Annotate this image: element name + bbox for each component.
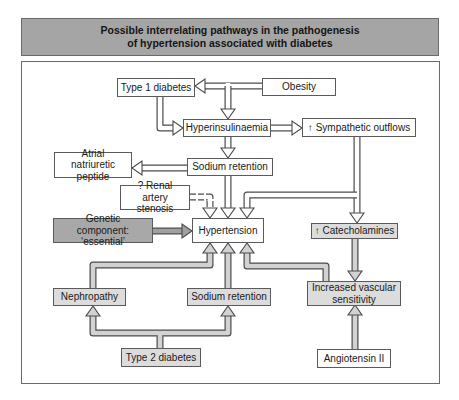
node-sympathetic-outflows: ↑ Sympathetic outflows xyxy=(302,118,416,137)
arrow-hyperinsulinaemia-to-sodium xyxy=(221,136,235,158)
node-type1-diabetes: Type 1 diabetes xyxy=(117,78,195,97)
arrow-sodium-to-hypertension xyxy=(221,174,235,218)
arrow-angiotensin-to-ivs xyxy=(348,305,362,350)
arrow-sympathetic-to-hypertension xyxy=(240,195,357,218)
node-catecholamines: ↑ Catecholamines xyxy=(311,223,398,239)
node-hyperinsulinaemia: Hyperinsulinaemia xyxy=(183,119,271,137)
node-sodium-retention-upper: Sodium retention xyxy=(187,158,273,176)
node-nephropathy: Nephropathy xyxy=(53,288,126,306)
arrow-sodium-lower-to-hypertension xyxy=(221,243,235,289)
node-atrial-natriuretic-peptide: Atrial natriuretic peptide xyxy=(54,152,132,178)
node-obesity: Obesity xyxy=(262,78,336,96)
arrow-catecholamines-to-ivs xyxy=(348,237,362,281)
arrow-type2-to-nephropathy-and-sodium xyxy=(86,306,235,349)
arrow-nephropathy-to-hypertension xyxy=(93,243,217,289)
arrow-layer: .o { fill: none; stroke: #4a4a4a; stroke… xyxy=(0,0,459,400)
arrow-type1-to-hyperinsulinaemia xyxy=(160,96,183,135)
node-increased-vascular-sensitivity: Increased vascular sensitivity xyxy=(307,281,401,306)
arrow-sodium-to-anp xyxy=(132,161,188,175)
node-genetic-component: Genetic component: ‘essential’ xyxy=(53,218,153,243)
arrow-renal-stenosis-to-hypertension xyxy=(189,197,217,218)
arrow-sympathetic-to-catecholamines xyxy=(350,136,364,223)
arrow-ivs-to-hypertension xyxy=(240,243,326,282)
node-angiotensin-ii: Angiotensin II xyxy=(317,349,391,368)
arrow-hyperinsulinaemia-to-sympathetic xyxy=(269,121,302,135)
node-type2-diabetes: Type 2 diabetes xyxy=(121,348,201,367)
node-sodium-retention-lower: Sodium retention xyxy=(187,288,271,306)
node-renal-artery-stenosis: ? Renal artery stenosis xyxy=(120,185,190,210)
node-hypertension: Hypertension xyxy=(192,218,264,243)
arrow-genetic-to-hypertension xyxy=(152,224,192,238)
